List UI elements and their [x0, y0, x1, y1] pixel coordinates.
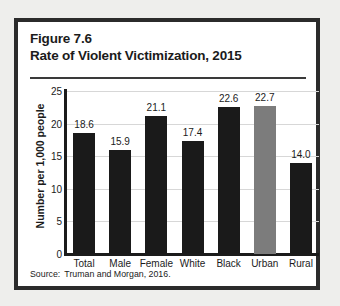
figure-inner: Figure 7.6 Rate of Violent Victimization…: [18, 22, 316, 286]
bar-group: 15.9: [109, 91, 131, 254]
bar-urban: [254, 106, 276, 254]
x-tick-label-rural: Rural: [283, 258, 319, 269]
figure-title-block: Figure 7.6 Rate of Violent Victimization…: [30, 30, 304, 64]
chart-plot: Number per 1,000 people 0510152025 18.61…: [18, 82, 316, 287]
y-tick-label: 10: [18, 183, 62, 194]
y-axis-ticks: 0510152025: [18, 91, 62, 254]
bar-value-label: 17.4: [173, 127, 213, 138]
source-text: Truman and Morgan, 2016.: [64, 269, 170, 279]
y-tick-label: 20: [18, 118, 62, 129]
source-label: Source:: [30, 269, 60, 279]
bar-rural: [290, 163, 312, 254]
bar-total: [73, 133, 95, 254]
bar-group: 22.7: [254, 91, 276, 254]
x-tick-label-black: Black: [211, 258, 247, 269]
bar-female: [145, 116, 167, 254]
bar-group: 18.6: [73, 91, 95, 254]
bar-male: [109, 150, 131, 254]
bar-value-label: 21.1: [136, 102, 176, 113]
x-tick-label-male: Male: [102, 258, 138, 269]
x-tick-label-urban: Urban: [247, 258, 283, 269]
bar-group: 22.6: [218, 91, 240, 254]
bar-group: 21.1: [145, 91, 167, 254]
bar-black: [218, 107, 240, 254]
figure-panel: Figure 7.6 Rate of Violent Victimization…: [14, 18, 320, 290]
y-tick-label: 5: [18, 216, 62, 227]
y-tick-label: 25: [18, 86, 62, 97]
bar-group: 14.0: [290, 91, 312, 254]
bar-value-label: 15.9: [100, 136, 140, 147]
bar-value-label: 22.6: [209, 93, 249, 104]
bar-white: [182, 141, 204, 254]
y-tick-label: 15: [18, 151, 62, 162]
source-note: Source:Truman and Morgan, 2016.: [30, 269, 171, 279]
bar-value-label: 14.0: [281, 149, 321, 160]
bar-value-label: 22.7: [245, 92, 285, 103]
figure-number: Figure 7.6: [30, 30, 304, 47]
y-tick-label: 0: [18, 249, 62, 260]
x-tick-label-total: Total: [66, 258, 102, 269]
bar-group: 17.4: [182, 91, 204, 254]
x-tick-label-female: Female: [138, 258, 174, 269]
figure-title: Rate of Violent Victimization, 2015: [30, 47, 304, 64]
title-divider: [30, 77, 306, 79]
bars-group: 18.615.921.117.422.622.714.0: [66, 91, 319, 254]
x-tick-label-white: White: [174, 258, 210, 269]
bar-value-label: 18.6: [64, 119, 104, 130]
